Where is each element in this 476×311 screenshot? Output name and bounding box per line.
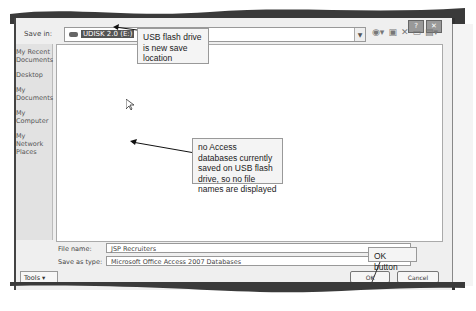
save-in-value: UDISK 2.0 (E:) bbox=[81, 30, 134, 38]
save-as-type-dropdown[interactable]: Microsoft Office Access 2007 Databases bbox=[106, 256, 411, 266]
file-name-input[interactable]: JSP Recruiters bbox=[106, 243, 411, 253]
save-in-dropdown[interactable]: UDISK 2.0 (E:) ▼ bbox=[64, 27, 366, 42]
tools-label: Tools bbox=[24, 274, 40, 282]
place-my-recent-documents[interactable]: My Recent Documents bbox=[16, 48, 52, 64]
place-my-computer[interactable]: My Computer bbox=[16, 109, 52, 125]
background-window-edge bbox=[452, 24, 473, 286]
callout-no-files: no Access databases currently saved on U… bbox=[192, 138, 283, 184]
places-bar: My Recent Documents Desktop My Documents… bbox=[16, 44, 53, 240]
save-as-type-label: Save as type: bbox=[58, 258, 102, 266]
mouse-pointer-icon bbox=[126, 99, 134, 111]
dialog-toolbar: ◉▾ ▣ ✕ ▭ ▤▾ bbox=[372, 27, 438, 37]
usb-drive-icon bbox=[69, 32, 78, 37]
callout-usb-drive: USB flash drive is new save location bbox=[137, 28, 209, 64]
up-folder-icon[interactable]: ▣ bbox=[388, 27, 397, 37]
chevron-down-icon[interactable]: ▼ bbox=[354, 28, 365, 41]
place-my-network-places[interactable]: My Network Places bbox=[16, 132, 52, 156]
callout-ok-button: OK button bbox=[368, 247, 417, 262]
file-name-label: File name: bbox=[58, 245, 92, 253]
views-icon[interactable]: ▤▾ bbox=[425, 27, 438, 37]
new-folder-icon[interactable]: ▭ bbox=[412, 27, 421, 37]
delete-icon[interactable]: ✕ bbox=[401, 27, 409, 37]
torn-edge-bottom bbox=[10, 282, 465, 302]
back-icon[interactable]: ◉▾ bbox=[372, 27, 384, 37]
place-desktop[interactable]: Desktop bbox=[16, 71, 52, 79]
place-my-documents[interactable]: My Documents bbox=[16, 86, 52, 102]
save-in-label: Save in: bbox=[24, 30, 52, 38]
